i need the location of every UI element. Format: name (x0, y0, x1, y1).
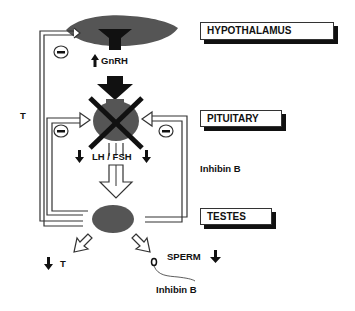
t-down-arrow-icon (44, 257, 53, 270)
testes-label: TESTES (200, 208, 272, 225)
inhibit-icon-hypothalamus (54, 46, 68, 58)
inhibit-icon-pituitary-left (54, 125, 68, 137)
lh-down-arrow-icon (75, 150, 84, 163)
gnrh-down-arrow-icon (97, 76, 133, 100)
hypothalamus-label: HYPOTHALAMUS (200, 22, 334, 40)
sperm-output-hollow-arrow-icon (132, 234, 150, 252)
sperm-down-arrow-icon (210, 250, 221, 263)
gnrh-up-arrow-icon (91, 54, 99, 67)
testes-shape (92, 205, 134, 233)
diagram-canvas (0, 0, 355, 311)
lh-fsh-label: LH / FSH (92, 151, 132, 162)
inhibit-icon-pituitary-right (159, 125, 173, 137)
pituitary-label: PITUITARY (200, 110, 282, 127)
t-output-hollow-arrow-icon (74, 234, 92, 252)
inhibin-b-right-label: Inhibin B (200, 163, 241, 174)
inhibin-b-bottom-label: Inhibin B (156, 284, 197, 295)
testosterone-feedback-label: T (20, 110, 26, 121)
gnrh-label: GnRH (101, 55, 128, 66)
sperm-label: SPERM (167, 251, 201, 262)
fsh-down-arrow-icon (142, 150, 151, 163)
testosterone-output-label: T (60, 258, 66, 269)
